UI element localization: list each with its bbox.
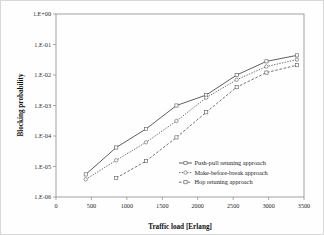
data-point-marker	[115, 146, 118, 149]
legend-marker-2	[184, 181, 187, 184]
y-axis-title: Blocking probability	[17, 73, 25, 137]
data-point-marker	[295, 58, 298, 61]
y-tick-label: 1.E-01	[34, 41, 51, 48]
legend-label-0: Push-pull retuning approach	[195, 159, 267, 166]
data-point-marker	[175, 104, 178, 107]
data-point-marker	[175, 136, 178, 139]
chart-legend: Push-pull retuning approachMake-before-b…	[176, 155, 294, 185]
x-tick-label: 2000	[192, 202, 204, 209]
data-point-marker	[144, 127, 147, 130]
x-tick-label: 0	[54, 202, 57, 209]
y-axis-ticks: 1.E+001.E-011.E-021.E-031.E-041.E-051.E-…	[33, 10, 56, 200]
x-axis-title: Traffic load [Erlang]	[148, 223, 212, 231]
data-point-marker	[115, 176, 118, 179]
legend-label-1: Make-before-break approach	[195, 169, 269, 176]
data-point-marker	[265, 71, 268, 74]
data-point-marker	[205, 111, 208, 114]
data-point-marker	[235, 86, 238, 89]
data-point-marker	[265, 65, 268, 68]
data-point-marker	[144, 141, 147, 144]
x-tick-label: 3500	[298, 202, 310, 209]
data-point-marker	[265, 60, 268, 63]
legend-marker-1	[184, 171, 187, 174]
y-tick-label: 1.E-06	[34, 193, 51, 200]
x-tick-label: 1500	[156, 202, 168, 209]
data-point-marker	[295, 64, 298, 67]
data-point-marker	[175, 119, 178, 122]
chart-figure: 0500100015002000250030003500 1.E+001.E-0…	[0, 0, 324, 235]
line-chart: 0500100015002000250030003500 1.E+001.E-0…	[1, 1, 324, 235]
y-tick-label: 1.E-03	[34, 102, 51, 109]
y-tick-label: 1.E-05	[34, 163, 51, 170]
legend-marker-0	[184, 161, 187, 164]
y-tick-label: 1.E-02	[34, 71, 51, 78]
x-tick-label: 1000	[121, 202, 133, 209]
data-point-marker	[235, 73, 238, 76]
y-tick-label: 1.E-04	[34, 132, 51, 139]
x-axis-ticks: 0500100015002000250030003500	[54, 197, 310, 209]
x-tick-label: 2500	[227, 202, 239, 209]
data-point-marker	[115, 159, 118, 162]
data-point-marker	[84, 173, 87, 176]
y-tick-label: 1.E+00	[33, 10, 51, 17]
data-point-marker	[295, 54, 298, 57]
data-point-marker	[144, 160, 147, 163]
data-point-marker	[235, 78, 238, 81]
x-tick-label: 500	[87, 202, 96, 209]
data-point-marker	[84, 178, 87, 181]
x-tick-label: 3000	[262, 202, 274, 209]
legend-label-2: Hop retuning approach	[195, 178, 254, 185]
data-point-marker	[205, 96, 208, 99]
